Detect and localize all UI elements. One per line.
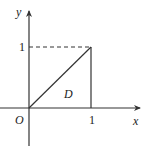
origin-label: O	[15, 113, 24, 127]
y-tick-label: 1	[19, 40, 25, 54]
x-axis-label: x	[132, 114, 139, 128]
line-y-equals-x	[29, 47, 91, 108]
y-axis-label: y	[15, 5, 22, 19]
coordinate-diagram: y 1 D O 1 x	[0, 0, 145, 159]
x-tick-label: 1	[89, 113, 95, 127]
region-label: D	[63, 87, 73, 101]
